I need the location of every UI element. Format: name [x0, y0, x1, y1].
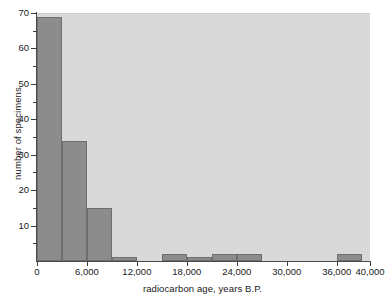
- y-tick-label: 50: [7, 79, 29, 89]
- histogram-bar: [62, 141, 87, 261]
- histogram-bar: [212, 254, 237, 261]
- y-tick-label: 40: [7, 114, 29, 124]
- y-tick-label-wrap: 20: [5, 185, 29, 195]
- y-tick-label-wrap: 30: [5, 150, 29, 160]
- histogram-bar: [237, 254, 262, 261]
- y-tick-major: [31, 119, 37, 120]
- y-tick-major: [31, 13, 37, 14]
- x-tick-label-wrap: 40,000: [340, 267, 389, 279]
- x-axis-title: radiocarbon age, years B.P.: [30, 283, 375, 294]
- y-tick-label-wrap: 60: [5, 43, 29, 53]
- y-tick-label: 70: [7, 8, 29, 18]
- y-tick-major: [31, 48, 37, 49]
- y-tick-major: [31, 155, 37, 156]
- y-tick-major: [31, 226, 37, 227]
- x-tick-label: 40,000: [340, 267, 389, 277]
- y-tick-minor: [33, 243, 37, 244]
- y-tick-minor: [33, 66, 37, 67]
- y-tick-label-wrap: 40: [5, 114, 29, 124]
- y-tick-minor: [33, 172, 37, 173]
- y-tick-label-wrap: 10: [5, 221, 29, 231]
- histogram-bar: [87, 208, 112, 261]
- y-tick-label-wrap: 50: [5, 79, 29, 89]
- y-tick-label: 60: [7, 43, 29, 53]
- y-tick-minor: [33, 102, 37, 103]
- y-tick-label: 10: [7, 221, 29, 231]
- chart-figure: number of specimens 10203040506070 06,00…: [0, 0, 389, 300]
- y-tick-label: 20: [7, 185, 29, 195]
- y-tick-minor: [33, 137, 37, 138]
- histogram-bar: [337, 254, 362, 261]
- plot-top-edge: [37, 13, 370, 14]
- histogram-bar: [162, 254, 187, 261]
- y-tick-minor: [33, 31, 37, 32]
- y-tick-major: [31, 190, 37, 191]
- histogram-bar: [37, 17, 62, 261]
- y-tick-label-wrap: 70: [5, 8, 29, 18]
- y-tick-label: 30: [7, 150, 29, 160]
- y-tick-minor: [33, 208, 37, 209]
- y-tick-major: [31, 84, 37, 85]
- plot-area: [37, 13, 370, 261]
